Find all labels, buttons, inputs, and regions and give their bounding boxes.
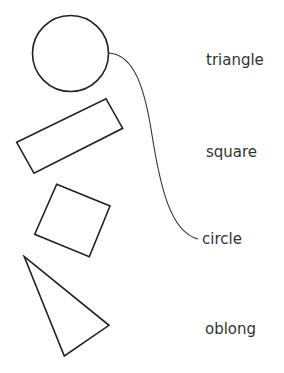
oblong-shape[interactable]: [17, 99, 123, 174]
label-oblong[interactable]: oblong: [205, 320, 256, 338]
connector-line-circle: [109, 53, 198, 239]
matching-diagram: triangle square circle oblong: [0, 0, 284, 373]
circle-shape[interactable]: [33, 16, 109, 92]
square-shape[interactable]: [35, 184, 110, 256]
triangle-shape[interactable]: [24, 257, 109, 356]
label-square[interactable]: square: [206, 143, 257, 161]
label-triangle[interactable]: triangle: [206, 51, 264, 69]
label-circle[interactable]: circle: [202, 230, 242, 248]
